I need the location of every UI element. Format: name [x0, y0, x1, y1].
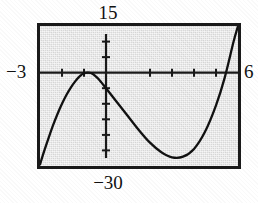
calculator-figure: 15 −3 6 −30	[0, 0, 258, 203]
calculator-screen	[37, 23, 241, 169]
window-xmax-label: 6	[244, 62, 254, 81]
x-axis	[40, 69, 238, 77]
graph-plot-area	[40, 26, 238, 166]
y-axis	[102, 34, 110, 158]
window-xmin-label: −3	[6, 62, 26, 81]
window-ymax-label: 15	[0, 3, 258, 22]
cubic-curve	[40, 26, 238, 164]
window-ymin-label: −30	[0, 173, 258, 192]
